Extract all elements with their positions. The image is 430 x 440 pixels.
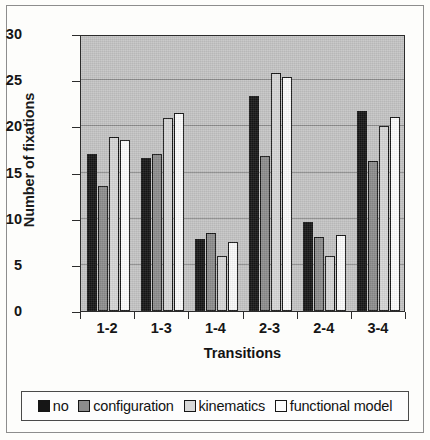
y-tick-mark (72, 220, 80, 221)
chart-legend: noconfigurationkinematicsfunctional mode… (21, 391, 409, 421)
bar (87, 154, 97, 311)
bar (120, 140, 130, 311)
y-tick-mark (72, 312, 80, 313)
bar (368, 161, 378, 311)
legend-label: kinematics (199, 398, 266, 414)
light-gray-square-icon (184, 400, 196, 412)
dark-gray-square-icon (78, 400, 90, 412)
x-tick-mark (405, 312, 406, 319)
y-tick-mark (72, 35, 80, 36)
y-tick-mark (72, 174, 80, 175)
x-tick-mark (134, 312, 135, 319)
bar (390, 117, 400, 311)
bar (260, 156, 270, 311)
x-tick-label: 2-4 (294, 320, 354, 336)
bar (152, 154, 162, 311)
bar (379, 126, 389, 311)
bar-group (244, 36, 298, 311)
y-tick-label: 30 (0, 26, 22, 42)
bar-chart-figure: Number of fixations 051015202530 1-21-31… (0, 0, 430, 440)
bar (249, 96, 259, 311)
white-square-icon (275, 400, 287, 412)
legend-label: configuration (93, 398, 173, 414)
x-tick-label: 1-4 (185, 320, 245, 336)
y-tick-label: 15 (0, 165, 22, 181)
legend-item: configuration (78, 398, 173, 414)
x-axis-title: Transitions (80, 345, 405, 361)
bar (336, 235, 346, 311)
y-tick-label: 5 (0, 257, 22, 273)
bar (217, 256, 227, 311)
plot-area (80, 35, 405, 312)
legend-label: functional model (290, 398, 392, 414)
bar (303, 222, 313, 311)
bar (141, 158, 151, 311)
x-tick-label: 1-2 (77, 320, 137, 336)
bar-group (81, 36, 135, 311)
bar (195, 239, 205, 311)
chart-area: Number of fixations 051015202530 1-21-31… (0, 0, 430, 380)
bar (314, 237, 324, 311)
bar (228, 242, 238, 311)
y-tick-label: 0 (0, 303, 22, 319)
bar (206, 233, 216, 311)
x-tick-mark (297, 312, 298, 319)
x-tick-mark (351, 312, 352, 319)
legend-label: no (53, 398, 69, 414)
bar (271, 73, 281, 311)
legend-item: kinematics (184, 398, 266, 414)
y-tick-label: 20 (0, 118, 22, 134)
legend-item: no (38, 398, 69, 414)
bar-group (352, 36, 405, 311)
x-tick-label: 3-4 (348, 320, 408, 336)
bar (325, 256, 335, 311)
black-square-icon (38, 400, 50, 412)
x-tick-mark (243, 312, 244, 319)
bar (98, 186, 108, 311)
y-tick-mark (72, 266, 80, 267)
y-tick-label: 25 (0, 72, 22, 88)
x-tick-label: 2-3 (240, 320, 300, 336)
y-axis-title: Number of fixations (21, 60, 37, 260)
x-tick-mark (80, 312, 81, 319)
bar (282, 77, 292, 311)
bar (109, 137, 119, 312)
bar (163, 118, 173, 311)
bar (357, 111, 367, 311)
x-tick-mark (188, 312, 189, 319)
y-tick-mark (72, 81, 80, 82)
legend-item: functional model (275, 398, 392, 414)
y-tick-label: 10 (0, 211, 22, 227)
bar-group (189, 36, 243, 311)
y-tick-mark (72, 127, 80, 128)
bar (174, 113, 184, 311)
bar-group (298, 36, 352, 311)
bar-group (135, 36, 189, 311)
x-tick-label: 1-3 (131, 320, 191, 336)
